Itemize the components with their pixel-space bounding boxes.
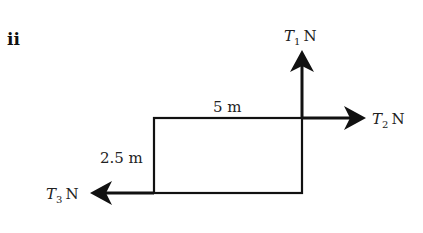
width-label: 5 m	[213, 98, 242, 116]
force-t3-arrow	[90, 181, 154, 205]
force-t3-label: T3N	[46, 185, 79, 205]
lamina-rectangle	[154, 118, 302, 193]
force-t2-arrow	[302, 106, 366, 130]
force-t1-arrow	[290, 50, 314, 118]
part-label: ii	[7, 29, 20, 49]
height-label: 2.5 m	[100, 149, 143, 167]
force-diagram: ii 5 m 2.5 m T1N T2N T3N	[0, 0, 423, 233]
force-t2-label: T2N	[372, 110, 405, 130]
force-t1-label: T1N	[284, 27, 317, 47]
